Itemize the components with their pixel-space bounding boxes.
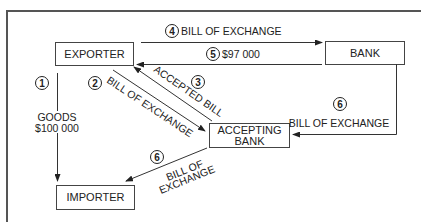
step-6-bill-to-importer-arrow: 6 BILL OF EXCHANGE xyxy=(126,148,216,196)
step-4-label: BILL OF EXCHANGE xyxy=(181,25,282,37)
step-1-goods-arrow: 1 GOODS $100 000 xyxy=(35,73,79,181)
bill-of-exchange-diagram: EXPORTER BANK ACCEPTING BANK IMPORTER 1 … xyxy=(0,0,421,222)
goods-amount: $100 000 xyxy=(35,122,79,134)
step-3-accepted-bill-arrow: 3 ACCEPTED BILL xyxy=(134,63,226,121)
importer-node: IMPORTER xyxy=(57,186,135,210)
bank-label: BANK xyxy=(350,47,381,59)
bank-node: BANK xyxy=(326,42,405,65)
step-5-payment-arrow: 5 $97 000 xyxy=(137,48,322,65)
step-4-bill-arrow: 4 BILL OF EXCHANGE xyxy=(141,25,322,43)
step-6-label: BILL OF EXCHANGE xyxy=(289,117,390,129)
accepting-bank-node: ACCEPTING BANK xyxy=(210,124,290,148)
svg-text:3: 3 xyxy=(195,77,201,88)
svg-text:5: 5 xyxy=(210,49,216,60)
importer-label: IMPORTER xyxy=(67,191,125,203)
accepting-bank-label-line2: BANK xyxy=(235,135,266,147)
svg-text:2: 2 xyxy=(92,78,98,89)
svg-text:6: 6 xyxy=(154,152,160,163)
exporter-node: EXPORTER xyxy=(56,43,134,66)
step-6-bill-to-accepting-bank-arrow: 6 BILL OF EXCHANGE xyxy=(289,64,397,135)
exporter-label: EXPORTER xyxy=(64,48,124,60)
svg-text:4: 4 xyxy=(169,26,175,37)
svg-text:1: 1 xyxy=(39,78,45,89)
svg-text:6: 6 xyxy=(337,99,343,110)
step-5-label: $97 000 xyxy=(222,48,260,60)
